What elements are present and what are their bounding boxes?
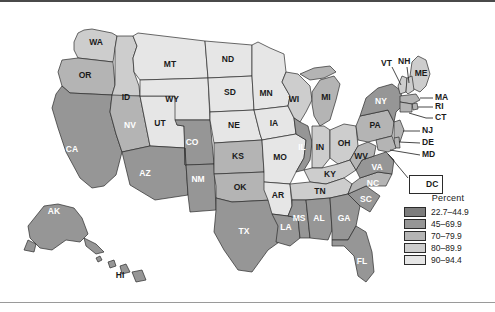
state-label-MT: MT [164, 59, 177, 69]
state-label-FL: FL [357, 256, 367, 266]
state-label-AR: AR [272, 190, 284, 200]
state-label-MO: MO [273, 152, 287, 162]
state-label-OH: OH [338, 138, 351, 148]
state-label-IL: IL [298, 142, 306, 152]
state-label-TN: TN [314, 186, 325, 196]
state-label-VA: VA [371, 162, 382, 172]
state-RI[interactable] [412, 103, 418, 110]
state-label-AK: AK [48, 206, 61, 216]
legend-swatch [404, 231, 426, 241]
leader-line-MD [390, 150, 420, 155]
state-label-IN: IN [316, 142, 325, 152]
state-label-PA: PA [369, 120, 380, 130]
leader-line-DE [399, 142, 420, 143]
state-label-TX: TX [239, 226, 250, 236]
leader-line-CT [409, 113, 433, 118]
offset-label-NH: NH [398, 56, 410, 66]
state-label-WA: WA [89, 37, 103, 47]
offset-label-VT: VT [381, 58, 393, 68]
state-label-ND: ND [222, 54, 234, 64]
legend-label: 22.7–44.9 [431, 207, 469, 217]
state-label-AL: AL [313, 213, 324, 223]
legend-row[interactable]: 80–89.9 [404, 242, 492, 253]
legend-label: 80–89.9 [431, 243, 462, 253]
legend-label: 70–79.9 [431, 231, 462, 241]
legend-swatch [404, 243, 426, 253]
state-AK[interactable] [24, 204, 104, 254]
state-label-WI: WI [289, 94, 299, 104]
offset-label-MD: MD [422, 149, 435, 159]
state-label-SD: SD [224, 87, 236, 97]
offset-label-DE: DE [422, 137, 434, 147]
map-legend: Percent 22.7–44.945–69.970–79.980–89.990… [404, 193, 492, 266]
state-label-AZ: AZ [139, 168, 150, 178]
legend-row[interactable]: 45–69.9 [404, 218, 492, 229]
legend-swatch [404, 219, 426, 229]
state-label-NY: NY [375, 96, 387, 106]
legend-swatch [404, 207, 426, 217]
state-label-MN: MN [259, 88, 272, 98]
state-label-ME: ME [415, 68, 428, 78]
state-label-OK: OK [234, 182, 248, 192]
state-label-LA: LA [280, 222, 291, 232]
legend-swatch [404, 255, 426, 265]
state-label-CO: CO [186, 137, 199, 147]
state-label-KS: KS [232, 151, 244, 161]
state-label-OR: OR [79, 70, 92, 80]
state-VT[interactable] [398, 76, 407, 94]
legend-label: 90–94.4 [431, 255, 462, 265]
figure-container: WA OR ID CA NV UT AZ MT WY CO NM ND SD N… [0, 0, 495, 312]
leader-line-VT [392, 67, 401, 85]
state-label-NM: NM [191, 174, 204, 184]
state-label-CA: CA [66, 144, 78, 154]
offset-label-CT: CT [435, 112, 447, 122]
state-label-MS: MS [293, 213, 306, 223]
legend-row[interactable]: 90–94.4 [404, 254, 492, 265]
state-MT[interactable] [133, 33, 208, 80]
state-label-KY: KY [324, 169, 336, 179]
legend-rows: 22.7–44.945–69.970–79.980–89.990–94.4 [404, 206, 492, 265]
legend-title: Percent [404, 193, 492, 203]
state-label-NC: NC [367, 178, 379, 188]
state-AZ[interactable] [122, 146, 188, 200]
state-label-WV: WV [354, 151, 368, 161]
state-label-WY: WY [165, 94, 179, 104]
dc-inset-label: DC [426, 179, 438, 189]
state-label-NE: NE [228, 120, 240, 130]
offset-label-RI: RI [435, 101, 444, 111]
legend-row[interactable]: 70–79.9 [404, 230, 492, 241]
state-label-UT: UT [154, 118, 166, 128]
state-label-GA: GA [338, 213, 351, 223]
state-label-SC: SC [360, 194, 372, 204]
offset-label-NJ: NJ [422, 125, 433, 135]
state-CT[interactable] [400, 102, 412, 112]
state-label-MI: MI [321, 92, 330, 102]
legend-row[interactable]: 22.7–44.9 [404, 206, 492, 217]
state-label-NV: NV [124, 120, 136, 130]
state-label-HI: HI [116, 270, 125, 280]
state-label-IA: IA [270, 118, 279, 128]
state-label-ID: ID [122, 92, 131, 102]
legend-label: 45–69.9 [431, 219, 462, 229]
